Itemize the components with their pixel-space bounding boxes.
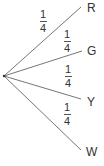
- probability-r: 1 4: [38, 9, 48, 34]
- denominator: 4: [38, 23, 48, 34]
- tree-branches: [0, 0, 104, 166]
- denominator: 4: [62, 116, 72, 127]
- numerator: 1: [63, 64, 73, 75]
- outcome-label-y: Y: [87, 96, 95, 108]
- probability-y: 1 4: [63, 64, 73, 89]
- numerator: 1: [62, 102, 72, 113]
- denominator: 4: [62, 43, 72, 54]
- numerator: 1: [38, 9, 48, 20]
- numerator: 1: [62, 29, 72, 40]
- denominator: 4: [63, 78, 73, 89]
- probability-g: 1 4: [62, 29, 72, 54]
- root-node: [3, 75, 5, 77]
- probability-w: 1 4: [62, 102, 72, 127]
- outcome-label-w: W: [86, 146, 97, 158]
- outcome-label-g: G: [87, 45, 96, 57]
- outcome-label-r: R: [87, 2, 96, 14]
